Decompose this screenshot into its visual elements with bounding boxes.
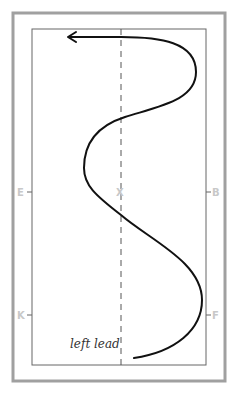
marker-e: E [17,187,24,198]
marker-b: B [212,187,220,198]
riding-path [70,37,202,358]
arena-diagram: E X B K F left lead [0,0,237,394]
caption-left-lead: left lead [70,337,120,351]
marker-k: K [17,310,26,321]
marker-x: X [116,187,124,198]
marker-f: F [212,310,219,321]
